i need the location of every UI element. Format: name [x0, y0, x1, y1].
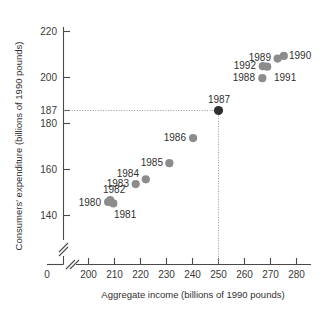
- y-tick-label-180: 180: [40, 118, 57, 129]
- x-tick-label-200: 200: [80, 269, 97, 280]
- data-point-1985: [165, 159, 173, 167]
- x-tick-label-270: 270: [262, 269, 279, 280]
- data-point-1992: [259, 62, 267, 70]
- point-label-1991: 1991: [274, 72, 297, 83]
- point-label-1990: 1990: [289, 50, 312, 61]
- x-tick-label-230: 230: [158, 269, 175, 280]
- point-label-1984: 1984: [117, 168, 140, 179]
- y-tick-label-187: 187: [40, 105, 57, 116]
- x-tick-label-210: 210: [106, 269, 123, 280]
- x-tick-label-280: 280: [288, 269, 305, 280]
- data-point-1984: [142, 175, 150, 183]
- scatter-chart: 220 200 187 180 160 140 0 200 210 220 23…: [0, 0, 327, 318]
- point-label-1987: 1987: [208, 94, 231, 105]
- point-label-1988: 1988: [233, 72, 256, 83]
- data-points: [104, 52, 288, 208]
- y-tick-marks: [64, 32, 71, 216]
- y-axis-break-mark-2: [59, 247, 68, 256]
- plot-area: 220 200 187 180 160 140 0 200 210 220 23…: [0, 0, 327, 318]
- point-label-1992: 1992: [234, 60, 257, 71]
- point-label-1986: 1986: [164, 132, 187, 143]
- point-label-1985: 1985: [141, 157, 164, 168]
- y-axis-break-mark-1: [59, 243, 68, 252]
- y-axis-title: Consumers' expenditure (billions of 1990…: [13, 42, 24, 251]
- point-label-1983: 1983: [107, 178, 130, 189]
- x-axis-title: Aggregate income (billions of 1990 pound…: [101, 289, 284, 300]
- y-tick-label-140: 140: [40, 210, 57, 221]
- x-tick-label-220: 220: [132, 269, 149, 280]
- data-point-1988: [258, 74, 266, 82]
- point-label-1981: 1981: [114, 209, 137, 220]
- x-tick-label-0: 0: [44, 269, 50, 280]
- data-point-1983: [132, 180, 140, 188]
- data-point-1990: [280, 52, 288, 60]
- y-tick-label-160: 160: [40, 164, 57, 175]
- data-point-1982: [106, 196, 114, 204]
- x-axis-break-mark-1: [66, 260, 75, 269]
- x-tick-label-260: 260: [236, 269, 253, 280]
- x-tick-label-250: 250: [210, 269, 227, 280]
- y-tick-label-220: 220: [40, 26, 57, 37]
- data-point-1986: [189, 134, 197, 142]
- data-point-1987: [214, 106, 223, 115]
- x-tick-label-240: 240: [184, 269, 201, 280]
- point-label-1980: 1980: [79, 197, 102, 208]
- x-tick-marks: [89, 258, 297, 265]
- y-tick-label-200: 200: [40, 72, 57, 83]
